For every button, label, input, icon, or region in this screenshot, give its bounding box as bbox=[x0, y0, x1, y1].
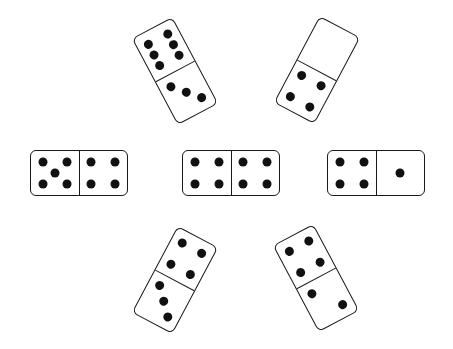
pip-dot bbox=[173, 49, 185, 61]
pip-dot bbox=[239, 180, 248, 189]
pip-dot bbox=[162, 311, 174, 323]
pip-dot bbox=[263, 180, 272, 189]
domino-half bbox=[231, 151, 280, 195]
pip-dot bbox=[295, 70, 307, 82]
pip-dot bbox=[165, 81, 177, 93]
pip-dot bbox=[314, 256, 326, 268]
pip-dot bbox=[62, 158, 71, 167]
pip-dot bbox=[190, 180, 199, 189]
domino-half bbox=[31, 151, 79, 195]
pip-dot bbox=[153, 280, 165, 292]
domino-half bbox=[328, 151, 376, 195]
pip-dot bbox=[87, 180, 96, 189]
domino-half bbox=[79, 151, 128, 195]
domino-bottom-right bbox=[273, 224, 360, 332]
pip-dot bbox=[158, 295, 170, 307]
pip-dot bbox=[396, 169, 405, 178]
pip-dot bbox=[304, 101, 316, 113]
pip-dot bbox=[165, 258, 177, 270]
pip-dot bbox=[38, 180, 47, 189]
pip-dot bbox=[180, 86, 192, 98]
domino-middle-right bbox=[327, 150, 425, 196]
pip-dot bbox=[50, 169, 59, 178]
pip-dot bbox=[162, 28, 174, 40]
pip-dot bbox=[190, 158, 199, 167]
pip-dot bbox=[38, 158, 47, 167]
pip-dot bbox=[306, 288, 318, 300]
pip-dot bbox=[359, 180, 368, 189]
pip-dot bbox=[111, 180, 120, 189]
domino-half bbox=[183, 151, 231, 195]
pip-dot bbox=[263, 158, 272, 167]
pip-dot bbox=[148, 49, 160, 61]
pip-dot bbox=[284, 91, 296, 103]
pip-dot bbox=[62, 180, 71, 189]
domino-bottom-left bbox=[132, 226, 219, 334]
pip-dot bbox=[239, 158, 248, 167]
pip-dot bbox=[196, 247, 208, 259]
pip-dot bbox=[176, 237, 188, 249]
domino-top-left bbox=[132, 17, 219, 125]
pip-dot bbox=[111, 158, 120, 167]
pip-dot bbox=[153, 59, 165, 71]
pip-dot bbox=[335, 158, 344, 167]
domino-middle-left bbox=[30, 150, 128, 196]
pip-dot bbox=[142, 38, 154, 50]
domino-top-right bbox=[274, 16, 361, 124]
pip-dot bbox=[214, 158, 223, 167]
pip-dot bbox=[87, 158, 96, 167]
pip-dot bbox=[283, 245, 295, 257]
pip-dot bbox=[359, 158, 368, 167]
pip-dot bbox=[315, 80, 327, 92]
pip-dot bbox=[167, 38, 179, 50]
pip-dot bbox=[214, 180, 223, 189]
pip-dot bbox=[303, 235, 315, 247]
pip-dot bbox=[184, 268, 196, 280]
pip-dot bbox=[196, 92, 208, 104]
domino-center bbox=[182, 150, 280, 196]
domino-half bbox=[376, 151, 425, 195]
pip-dot bbox=[294, 266, 306, 278]
pip-dot bbox=[335, 180, 344, 189]
pip-dot bbox=[337, 299, 349, 311]
